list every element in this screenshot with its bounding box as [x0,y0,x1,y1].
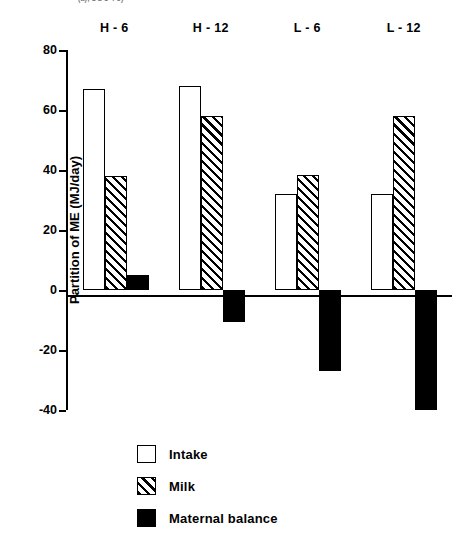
y-tick-60 [59,110,66,112]
plot-area: Partition of ME (MJ/day) 806040200-20-40 [66,50,452,410]
y-tick-label-40: 40 [43,163,57,177]
y-tick-20 [59,230,66,232]
y-tick-40 [59,170,66,172]
bar-h-6-intake [83,89,105,290]
y-tick-label-80: 80 [43,43,57,57]
legend-item-milk: Milk [137,477,278,495]
hatched-square-swatch [137,477,156,495]
bar-l-6-milk [297,175,319,291]
group-label-row: H - 6H - 12L - 6L - 12 [66,19,452,37]
y-tick--20 [59,350,66,352]
bar-groups [68,50,452,410]
bar-l-12-milk [393,116,415,290]
legend-label: Maternal balance [169,511,278,526]
y-tick-label--40: -40 [39,403,57,417]
bar-h-6-milk [105,176,127,290]
bar-l-12-maternal-balance [415,290,437,410]
bar-group-3 [260,50,356,410]
solid-square-swatch [137,509,156,527]
bar-h-12-milk [201,116,223,290]
bar-l-6-intake [275,194,297,290]
y-tick-label-0: 0 [50,283,57,297]
bar-h-12-intake [179,86,201,290]
bar-l-6-maternal-balance [319,290,341,371]
y-tick-label--20: -20 [39,343,57,357]
clipped-header-text: (a); 1 2 3 4 5) [78,0,123,2]
bar-group-1 [68,50,164,410]
legend-item-intake: Intake [137,445,278,463]
figure-root: (a); 1 2 3 4 5) H - 6H - 12L - 6L - 12 P… [0,0,458,543]
open-square-swatch [137,445,156,463]
legend-label: Milk [169,479,195,494]
bar-h-6-maternal-balance [127,275,149,290]
bar-h-12-maternal-balance [223,290,245,322]
y-tick--40 [59,410,66,412]
legend-label: Intake [169,447,208,462]
group-label-2: H - 12 [163,19,260,37]
bar-group-2 [164,50,260,410]
group-label-4: L - 12 [356,19,453,37]
bar-group-4 [356,50,452,410]
y-tick-0 [59,290,66,292]
y-tick-label-20: 20 [43,223,57,237]
group-label-1: H - 6 [66,19,163,37]
legend-item-maternal-balance: Maternal balance [137,509,278,527]
group-label-3: L - 6 [259,19,356,37]
legend: IntakeMilkMaternal balance [137,445,278,527]
y-tick-80 [59,50,66,52]
y-tick-label-60: 60 [43,103,57,117]
bar-l-12-intake [371,194,393,290]
